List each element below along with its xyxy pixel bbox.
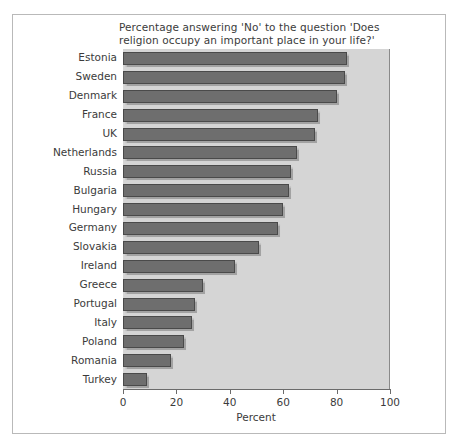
x-tick-label: 80 (330, 396, 343, 408)
bar (123, 354, 171, 367)
x-tick-label: 100 (380, 396, 400, 408)
x-tick (283, 389, 284, 394)
bar (123, 165, 291, 178)
bar (123, 373, 147, 386)
bar (123, 71, 345, 84)
category-label: Greece (80, 278, 117, 290)
bar (123, 90, 337, 103)
bar (123, 279, 203, 292)
bar (123, 298, 195, 311)
x-tick-label: 0 (120, 396, 127, 408)
bar (123, 316, 192, 329)
bar (123, 203, 283, 216)
category-label: Turkey (83, 373, 117, 385)
figure-frame: Percentage answering 'No' to the questio… (12, 14, 446, 434)
category-label: Romania (71, 354, 117, 366)
category-label: UK (102, 127, 117, 139)
x-tick (337, 389, 338, 394)
category-label: Russia (83, 165, 117, 177)
bar (123, 128, 315, 141)
chart-title: Percentage answering 'No' to the questio… (119, 21, 419, 47)
category-label: Hungary (72, 203, 117, 215)
category-label: Germany (69, 221, 117, 233)
x-tick-label: 60 (277, 396, 290, 408)
x-tick (390, 389, 391, 394)
bar (123, 260, 235, 273)
category-label: Bulgaria (73, 184, 117, 196)
category-label: Ireland (81, 259, 117, 271)
bar (123, 52, 347, 65)
category-label: Sweden (76, 70, 118, 82)
category-label: Poland (82, 335, 117, 347)
plot-area: EstoniaSwedenDenmarkFranceUKNetherlandsR… (123, 49, 390, 389)
category-label: Denmark (69, 89, 117, 101)
x-tick (176, 389, 177, 394)
x-tick (230, 389, 231, 394)
category-label: Portugal (74, 297, 118, 309)
category-label: Italy (94, 316, 117, 328)
x-axis-line (123, 389, 390, 390)
bar (123, 241, 259, 254)
bar (123, 146, 297, 159)
x-axis-title: Percent (123, 411, 389, 423)
bar (123, 222, 278, 235)
bar (123, 335, 184, 348)
category-label: Slovakia (73, 240, 117, 252)
x-tick-label: 40 (223, 396, 236, 408)
x-tick (123, 389, 124, 394)
bar (123, 109, 318, 122)
category-label: Netherlands (53, 146, 117, 158)
category-label: France (82, 108, 117, 120)
bar (123, 184, 289, 197)
category-label: Estonia (78, 51, 117, 63)
x-tick-label: 20 (170, 396, 183, 408)
